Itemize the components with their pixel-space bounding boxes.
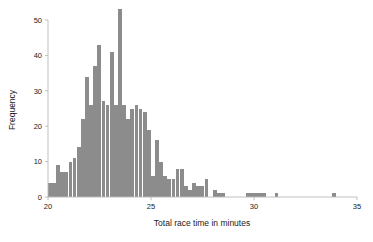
histogram-bar <box>89 105 93 197</box>
histogram-bar <box>163 176 167 197</box>
histogram-bar <box>151 176 155 197</box>
histogram-bar <box>176 169 180 197</box>
histogram-bar <box>262 193 266 197</box>
x-tick-label: 30 <box>250 202 258 211</box>
x-tick-label: 35 <box>353 202 361 211</box>
histogram-bar <box>258 193 262 197</box>
histogram-bar <box>126 119 130 197</box>
y-tick-label: 20 <box>34 122 42 131</box>
y-tick-label: 40 <box>34 51 42 60</box>
histogram-bar <box>180 169 184 197</box>
histogram-bar <box>143 112 147 197</box>
histogram-bar <box>60 172 64 197</box>
x-tick-label: 20 <box>44 202 52 211</box>
histogram-bar <box>159 162 163 197</box>
histogram-bar <box>135 105 139 197</box>
histogram-bar <box>139 109 143 198</box>
histogram-canvas: 01020304050 20253035 Total race time in … <box>0 0 373 242</box>
histogram-bar <box>147 130 151 197</box>
histogram-bar <box>155 140 159 197</box>
histogram-bar <box>275 193 279 197</box>
histogram-bar <box>221 193 225 197</box>
histogram-bar <box>48 183 52 197</box>
histogram-bar <box>332 193 336 197</box>
histogram-bar <box>188 190 192 197</box>
y-tick-label: 50 <box>34 16 42 25</box>
histogram-bar <box>250 193 254 197</box>
histogram-bar <box>114 105 118 197</box>
histogram-bar <box>130 109 134 198</box>
histogram-bar <box>69 162 73 197</box>
histogram-bar <box>97 45 101 197</box>
x-tick-label: 25 <box>147 202 155 211</box>
histogram-bar <box>192 183 196 197</box>
y-tick-label: 30 <box>34 87 42 96</box>
histogram-bar <box>172 179 176 197</box>
histogram-bar <box>64 172 68 197</box>
histogram-bar <box>122 105 126 197</box>
histogram-bar <box>73 158 77 197</box>
x-axis-title: Total race time in minutes <box>154 218 250 228</box>
y-tick-label: 10 <box>34 157 42 166</box>
histogram-figure: 01020304050 20253035 Total race time in … <box>0 0 373 242</box>
histogram-bar <box>77 147 81 197</box>
histogram-bar <box>81 119 85 197</box>
figure-background <box>0 0 373 242</box>
histogram-bar <box>118 9 122 197</box>
histogram-bar <box>184 186 188 197</box>
histogram-bar <box>217 193 221 197</box>
histogram-bar <box>254 193 258 197</box>
histogram-bar <box>85 77 89 197</box>
y-axis-title: Frequency <box>7 89 17 130</box>
histogram-bar <box>52 183 56 197</box>
histogram-bar <box>246 193 250 197</box>
histogram-bar <box>106 105 110 197</box>
y-tick-label: 0 <box>38 193 42 202</box>
histogram-bar <box>102 101 106 197</box>
histogram-bar <box>56 165 60 197</box>
histogram-bar <box>93 66 97 197</box>
histogram-bar <box>200 186 204 197</box>
histogram-bar <box>196 186 200 197</box>
histogram-bar <box>205 179 209 197</box>
histogram-bar <box>110 52 114 197</box>
histogram-bar <box>213 190 217 197</box>
histogram-bar <box>167 179 171 197</box>
